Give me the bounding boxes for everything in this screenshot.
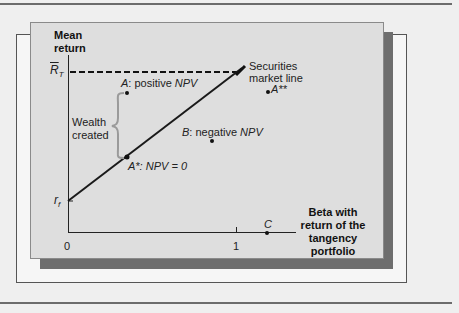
rt-main: R — [50, 63, 59, 77]
rt-label: RT — [50, 64, 64, 81]
x-tick-label-1: 1 — [233, 240, 239, 252]
point-astar — [125, 155, 130, 160]
point-a — [125, 91, 129, 95]
point-a-npv: NPV — [175, 77, 198, 89]
y-axis-title-line2: return — [54, 42, 86, 55]
point-a-label: A: positive NPV — [121, 77, 197, 89]
x-tick-label-0: 0 — [64, 240, 70, 252]
point-c — [265, 231, 269, 235]
point-b — [210, 139, 214, 143]
y-axis-title: Mean return — [54, 29, 86, 55]
point-a-text: : positive — [128, 77, 174, 89]
wealth-created-label: Wealth created — [72, 116, 109, 142]
point-b-npv: NPV — [240, 126, 263, 138]
y-axis-title-line1: Mean — [54, 29, 86, 42]
point-astarstar — [266, 90, 270, 94]
point-astar-label: A*: NPV = 0 — [128, 160, 187, 172]
rf-label: rf — [54, 194, 60, 211]
wealth-line1: Wealth — [72, 116, 109, 129]
x-axis-title-line3: tangency — [296, 232, 370, 245]
x-axis-title: Beta with return of the tangency portfol… — [296, 206, 370, 258]
rt-sub: T — [59, 70, 64, 79]
x-axis-title-line2: return of the — [296, 219, 370, 232]
x-axis-title-line1: Beta with — [296, 206, 370, 219]
wealth-line2: created — [72, 129, 109, 142]
sml-label-line1: Securities — [249, 60, 303, 72]
point-b-text: : negative — [189, 126, 240, 138]
rf-sub: f — [58, 200, 60, 209]
point-c-label: C — [264, 218, 272, 230]
wealth-brace — [112, 93, 124, 158]
point-b-label: B: negative NPV — [182, 126, 263, 138]
x-axis-title-line4: portfolio — [296, 245, 370, 258]
point-astarstar-label: A** — [271, 83, 287, 95]
sml-label: Securities market line — [249, 60, 303, 84]
